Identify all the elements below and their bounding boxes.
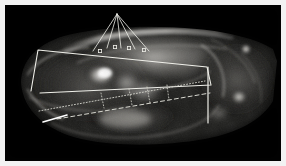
occlusal-plane-quadrilateral — [31, 50, 211, 93]
landmark-marker-1 — [98, 49, 101, 52]
ramus-short-segment — [43, 115, 67, 122]
tick-2 — [129, 89, 132, 105]
annotation-overlay — [5, 5, 281, 161]
ramus-short-segment — [43, 115, 67, 122]
landmark-marker-3 — [127, 46, 130, 49]
landmark-marker-4 — [142, 48, 145, 51]
fan-ray-2 — [107, 14, 117, 48]
mandibular-dotted-line-upper — [39, 81, 205, 111]
landmark-markers — [98, 45, 145, 52]
radiograph-frame — [5, 5, 281, 161]
tick-1 — [101, 93, 104, 108]
tick-3 — [147, 87, 150, 103]
radiograph-figure — [0, 0, 286, 166]
quadrilateral-outline — [31, 50, 211, 93]
mandibular-dashed-line-lower — [57, 93, 210, 119]
fan-ray-3 — [117, 14, 121, 48]
landmark-marker-2 — [113, 45, 116, 48]
measurement-fan — [93, 14, 149, 51]
